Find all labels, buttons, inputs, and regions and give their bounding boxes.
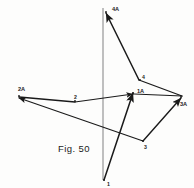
figure-caption: Fig. 50 bbox=[58, 143, 90, 154]
vertex-dot-3 bbox=[142, 140, 144, 142]
vertex-label-4a: 4A bbox=[112, 7, 119, 13]
vector-4-to-4A bbox=[106, 13, 139, 80]
figure-50-diagram: 12341A2A3A4A Fig. 50 bbox=[0, 0, 194, 188]
vertex-dot-2a bbox=[18, 95, 20, 97]
vertex-label-1a: 1A bbox=[137, 89, 144, 95]
vertex-dot-4 bbox=[139, 79, 141, 81]
vertex-dot-3a bbox=[180, 96, 182, 98]
vertex-label-2: 2 bbox=[74, 95, 77, 100]
vertex-label-1: 1 bbox=[107, 182, 110, 187]
vertex-dot-1 bbox=[103, 179, 105, 181]
vector-3A-to-4 bbox=[139, 80, 182, 96]
vertex-dot-2 bbox=[74, 100, 76, 102]
vertex-label-3a: 3A bbox=[180, 102, 187, 108]
vector-2-to-1A bbox=[75, 94, 133, 102]
vertex-dot-1a bbox=[132, 92, 134, 94]
vertex-dots-layer bbox=[18, 11, 182, 181]
vector-diagram-canvas bbox=[0, 0, 194, 188]
vertex-label-2a: 2A bbox=[18, 87, 25, 93]
vertex-label-4: 4 bbox=[142, 75, 145, 80]
vertex-label-3: 3 bbox=[144, 145, 147, 150]
vector-3-to-3A bbox=[143, 98, 181, 141]
vertex-dot-4a bbox=[105, 11, 107, 13]
vector-lines-layer bbox=[19, 13, 182, 180]
